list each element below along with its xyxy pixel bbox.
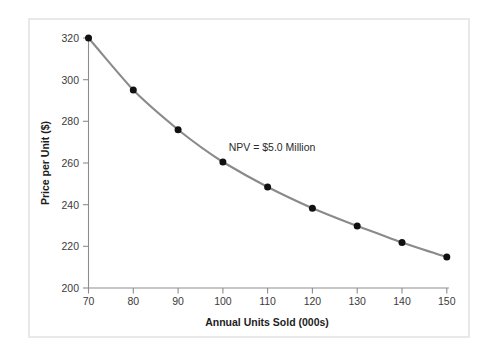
axes-group	[89, 38, 450, 288]
y-tick-label-240: 240	[61, 199, 79, 211]
x-tick-label-140: 140	[393, 295, 411, 307]
x-tick-label-100: 100	[214, 295, 232, 307]
x-tick-label-110: 110	[259, 295, 276, 307]
x-tick-label-150: 150	[438, 295, 456, 307]
y-tick-labels: 320 300 280 260 240 220 200	[61, 32, 79, 294]
x-tick-label-120: 120	[304, 295, 322, 307]
data-point-100[interactable]	[219, 159, 226, 166]
data-point-80[interactable]	[130, 87, 137, 94]
y-axis-title: Price per Unit ($)	[39, 121, 51, 205]
y-tick-label-320: 320	[61, 32, 79, 44]
data-point-140[interactable]	[399, 239, 406, 246]
data-point-120[interactable]	[309, 205, 316, 212]
data-point-70[interactable]	[85, 35, 92, 42]
data-point-110[interactable]	[264, 184, 271, 191]
x-tick-label-130: 130	[348, 295, 366, 307]
npv-annotation: NPV = $5.0 Million	[229, 141, 316, 153]
data-point-90[interactable]	[175, 126, 182, 133]
x-tick-label-80: 80	[127, 295, 139, 307]
y-tick-marks	[83, 38, 89, 288]
y-tick-label-280: 280	[61, 115, 79, 127]
x-axis-title: Annual Units Sold (000s)	[205, 316, 329, 328]
x-tick-label-90: 90	[172, 295, 184, 307]
y-tick-label-220: 220	[61, 240, 79, 252]
y-tick-label-260: 260	[61, 157, 79, 169]
y-tick-label-200: 200	[61, 282, 79, 294]
x-tick-labels: 70 80 90 100 110 120 130 140 150	[83, 295, 456, 307]
npv-break-even-chart: 320 300 280 260 240 220 200 70 80 90 100	[0, 0, 499, 356]
data-point-150[interactable]	[443, 254, 450, 261]
y-tick-label-300: 300	[61, 74, 79, 86]
x-tick-marks	[89, 288, 447, 294]
x-tick-label-70: 70	[83, 295, 95, 307]
figure-root: 320 300 280 260 240 220 200 70 80 90 100	[0, 0, 499, 356]
data-point-130[interactable]	[354, 223, 361, 230]
